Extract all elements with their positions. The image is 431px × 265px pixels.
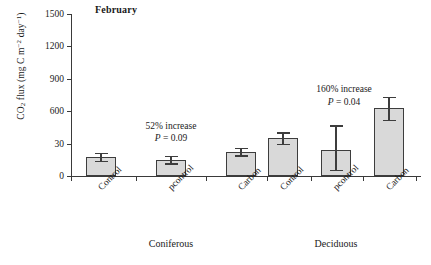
- annotation-increase: 52% increase: [111, 120, 231, 133]
- y-axis-tick-label: 600: [31, 111, 64, 112]
- y-axis-tick-label: 1200: [31, 46, 64, 47]
- annotation: 160% increaseP = 0.04: [284, 83, 404, 108]
- error-bar-cap-lower: [383, 120, 396, 121]
- y-axis-label-sup2: −1: [15, 16, 23, 24]
- error-bar-cap-lower: [165, 163, 178, 164]
- error-bar-cap-lower: [235, 155, 248, 156]
- x-axis-tick: [136, 176, 137, 181]
- error-bar-cap-upper: [235, 148, 248, 149]
- chart-title: February: [95, 4, 137, 15]
- y-axis-label-mid2: day: [16, 23, 26, 40]
- y-axis-tick-label: 0: [31, 176, 64, 177]
- annotation-pvalue: P = 0.04: [284, 96, 404, 109]
- x-axis-tick: [206, 176, 207, 181]
- error-bar: [335, 125, 336, 169]
- plot-area: February 03060090012001500Controlpcontro…: [71, 14, 421, 176]
- y-axis-tick: [67, 46, 72, 47]
- x-axis-tick: [71, 176, 72, 181]
- error-bar-cap-lower: [95, 161, 108, 162]
- error-bar-cap-upper: [95, 153, 108, 154]
- y-axis-tick-label: 30: [31, 144, 64, 145]
- error-bar-cap-lower: [277, 144, 290, 145]
- error-bar-cap-lower: [330, 170, 343, 171]
- y-axis-tick: [67, 14, 72, 15]
- y-axis-tick: [67, 144, 72, 145]
- error-bar-cap-upper: [277, 132, 290, 133]
- annotation: 52% increaseP = 0.09: [111, 120, 231, 145]
- y-axis-label-suffix: ): [16, 12, 26, 15]
- x-axis-tick: [267, 176, 268, 181]
- x-axis-group-label: Deciduous: [276, 238, 396, 249]
- error-bar-cap-upper: [330, 125, 343, 126]
- x-axis-tick: [363, 176, 364, 181]
- y-axis-tick: [67, 111, 72, 112]
- y-axis-tick: [67, 79, 72, 80]
- y-axis-tick-label: 1500: [31, 14, 64, 15]
- y-axis-label-mid: flux (mg C m: [16, 47, 26, 102]
- x-axis-group-label: Coniferous: [111, 238, 231, 249]
- error-bar-cap-upper: [165, 156, 178, 157]
- y-axis-label-prefix: CO: [16, 106, 26, 119]
- chart-figure: CO2 flux (mg C m−2 day−1) February 03060…: [0, 0, 431, 265]
- x-axis-tick: [311, 176, 312, 181]
- y-axis-tick-label: 900: [31, 79, 64, 80]
- annotation-increase: 160% increase: [284, 83, 404, 96]
- y-axis-label-sup1: −2: [15, 40, 23, 48]
- y-axis-label-sub: 2: [19, 103, 27, 107]
- y-axis-line: [71, 14, 72, 176]
- y-axis-label: CO2 flux (mg C m−2 day−1): [15, 1, 27, 131]
- error-bar: [282, 132, 283, 143]
- x-axis-tick: [416, 176, 417, 181]
- annotation-pvalue: P = 0.09: [111, 132, 231, 145]
